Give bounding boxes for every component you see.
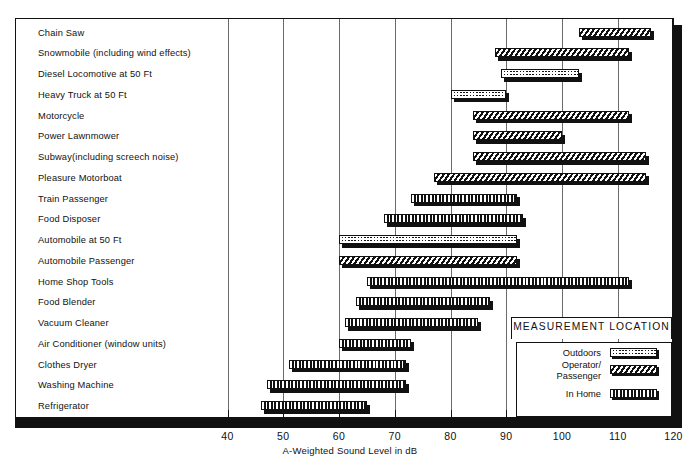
category-label: Vacuum Cleaner — [38, 318, 109, 328]
bar — [345, 318, 479, 327]
category-label: Automobile Passenger — [38, 256, 135, 266]
category-label: Heavy Truck at 50 Ft — [38, 90, 127, 100]
category-label: Chain Saw — [38, 28, 84, 38]
category-label: Refrigerator — [38, 401, 89, 411]
legend-label: Outdoors — [515, 348, 601, 359]
category-label: Air Conditioner (window units) — [38, 339, 166, 349]
tick-label-80: 80 — [431, 430, 471, 442]
bar — [384, 214, 523, 223]
gridline-40 — [228, 19, 229, 418]
bar — [367, 277, 629, 286]
category-label: Train Passenger — [38, 194, 108, 204]
category-label: Food Disposer — [38, 214, 100, 224]
x-axis-bar — [15, 418, 682, 428]
category-label: Food Blender — [38, 297, 96, 307]
bar — [267, 380, 406, 389]
category-label: Snowmobile (including wind effects) — [38, 48, 191, 58]
tick-label-110: 110 — [598, 430, 638, 442]
legend-swatch-operator — [610, 365, 657, 374]
bar — [339, 235, 517, 244]
category-label: Home Shop Tools — [38, 277, 113, 287]
bar — [451, 90, 507, 99]
bar — [261, 401, 367, 410]
tick-120 — [674, 410, 675, 419]
legend: MEASUREMENT LOCATION OutdoorsOperator/Pa… — [511, 317, 672, 417]
frame-right-shadow — [673, 25, 682, 425]
tick-80 — [451, 410, 452, 419]
tick-90 — [506, 410, 507, 419]
legend-swatch-outdoors — [610, 348, 657, 357]
category-label: Power Lawnmower — [38, 131, 119, 141]
bar — [339, 339, 411, 348]
bar — [495, 48, 629, 57]
legend-entry: In Home — [511, 389, 667, 409]
bar — [356, 297, 490, 306]
category-label: Diesel Locomotive at 50 Ft — [38, 69, 152, 79]
legend-title: MEASUREMENT LOCATION — [511, 321, 672, 332]
gridline-50 — [283, 19, 284, 418]
tick-70 — [395, 410, 396, 419]
bar — [473, 111, 629, 120]
bar — [473, 131, 562, 140]
tick-label-100: 100 — [542, 430, 582, 442]
category-label: Washing Machine — [38, 380, 114, 390]
tick-label-90: 90 — [486, 430, 526, 442]
legend-label: Operator/Passenger — [515, 360, 601, 381]
category-label: Clothes Dryer — [38, 360, 97, 370]
tick-label-40: 40 — [208, 430, 248, 442]
category-label: Motorcycle — [38, 111, 84, 121]
category-label: Pleasure Motorboat — [38, 173, 122, 183]
tick-40 — [228, 410, 229, 419]
tick-label-70: 70 — [375, 430, 415, 442]
bar — [501, 69, 579, 78]
gridline-60 — [339, 19, 340, 418]
tick-label-50: 50 — [263, 430, 303, 442]
bar — [411, 194, 517, 203]
x-axis-title: A-Weighted Sound Level in dB — [190, 445, 510, 456]
tick-label-60: 60 — [319, 430, 359, 442]
category-label: Automobile at 50 Ft — [38, 235, 121, 245]
tick-label-120: 120 — [654, 430, 690, 442]
bar — [289, 360, 406, 369]
bar — [339, 256, 517, 265]
legend-label: In Home — [515, 389, 601, 400]
bar — [579, 28, 651, 37]
bar — [434, 173, 646, 182]
legend-swatch-inhome — [610, 389, 657, 398]
noise-level-chart-figure: 405060708090100110120 Chain SawSnowmobil… — [0, 0, 690, 462]
category-label: Subway(including screech noise) — [38, 152, 179, 162]
legend-entry: Operator/Passenger — [511, 365, 667, 385]
bar — [473, 152, 646, 161]
